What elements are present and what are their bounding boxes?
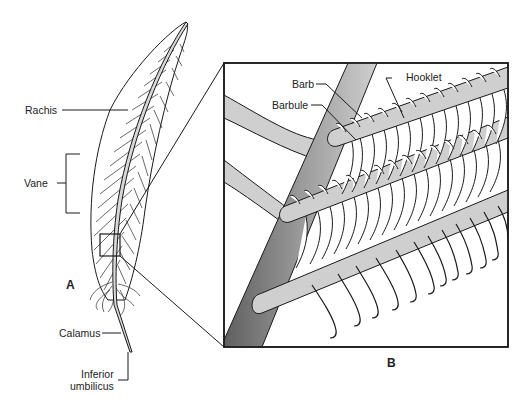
label-barbule: Barbule (272, 99, 308, 111)
label-calamus: Calamus (59, 327, 100, 339)
label-vane: Vane (24, 177, 48, 189)
feather-diagram (0, 0, 526, 406)
label-barb: Barb (292, 78, 314, 90)
feather-outline (91, 22, 188, 300)
panel-b-label: B (387, 356, 396, 370)
zoom-line-bottom (120, 256, 224, 347)
label-hooklet: Hooklet (406, 71, 442, 83)
label-rachis: Rachis (25, 104, 57, 116)
vane-bracket (57, 154, 80, 213)
label-inferior-umbilicus-line1: Inferior (81, 368, 114, 380)
panel-a-label: A (66, 278, 75, 292)
label-inferior-umbilicus-line2: umbilicus (70, 380, 114, 392)
umbilicus-leader (118, 352, 128, 380)
